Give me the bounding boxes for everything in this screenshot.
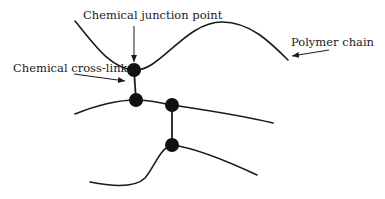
- junction-node: [129, 93, 143, 107]
- label-junction-point: Chemical junction point: [83, 8, 223, 22]
- junction-node: [165, 98, 179, 112]
- arrow-polymer-chain: [292, 50, 329, 56]
- label-cross-links: Chemical cross-links: [13, 61, 134, 75]
- polymer-network-diagram: Chemical junction point Chemical cross-l…: [0, 0, 385, 199]
- arrow-cross-links: [74, 74, 125, 81]
- label-polymer-chain: Polymer chain: [291, 35, 375, 49]
- junction-node: [165, 138, 179, 152]
